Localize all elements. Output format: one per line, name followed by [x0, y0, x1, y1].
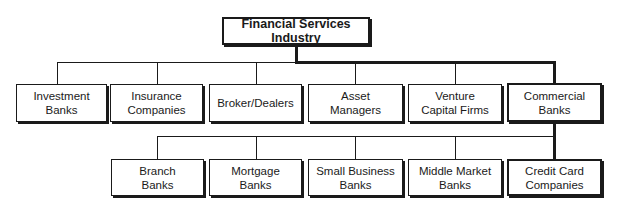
connector-middle-market — [455, 136, 456, 159]
node-venture-capital-firms: Venture Capital Firms — [408, 84, 502, 122]
connector-small-business — [355, 136, 356, 159]
connector-insurance — [157, 62, 158, 84]
node-label: Investment Banks — [17, 89, 106, 117]
level1-bus-thick — [295, 61, 556, 64]
node-label: Insurance Companies — [127, 89, 185, 117]
node-label: Branch Banks — [139, 164, 175, 192]
level2-bus — [157, 136, 555, 137]
node-branch-banks: Branch Banks — [111, 159, 204, 196]
node-label: Mortgage Banks — [231, 164, 280, 192]
connector-asset-managers — [355, 62, 356, 84]
node-financial-services-industry: Financial Services Industry — [222, 17, 370, 45]
node-mortgage-banks: Mortgage Banks — [209, 159, 302, 196]
node-label: Credit Card Companies — [525, 164, 584, 192]
node-asset-managers: Asset Managers — [308, 84, 403, 122]
node-commercial-banks: Commercial Banks — [507, 83, 602, 122]
connector-branch — [157, 136, 158, 159]
node-broker-dealers: Broker/Dealers — [209, 84, 302, 122]
connector-commercial-banks — [553, 62, 556, 84]
node-credit-card-companies: Credit Card Companies — [507, 159, 602, 196]
connector-broker-dealers — [256, 62, 257, 84]
connector-investment-banks — [57, 62, 58, 84]
node-label: Venture Capital Firms — [421, 89, 489, 117]
node-insurance-companies: Insurance Companies — [110, 84, 203, 122]
node-investment-banks: Investment Banks — [16, 84, 107, 122]
commercial-down-connector — [553, 121, 556, 161]
node-label: Small Business Banks — [316, 164, 395, 192]
level1-bus-thin — [57, 62, 297, 63]
connector-mortgage — [256, 136, 257, 159]
connector-venture — [455, 62, 456, 84]
node-small-business-banks: Small Business Banks — [308, 159, 403, 196]
node-label: Financial Services Industry — [224, 17, 368, 45]
node-middle-market-banks: Middle Market Banks — [408, 159, 502, 196]
node-label: Asset Managers — [330, 89, 381, 117]
node-label: Broker/Dealers — [217, 96, 294, 110]
node-label: Commercial Banks — [509, 89, 600, 117]
node-label: Middle Market Banks — [419, 164, 491, 192]
